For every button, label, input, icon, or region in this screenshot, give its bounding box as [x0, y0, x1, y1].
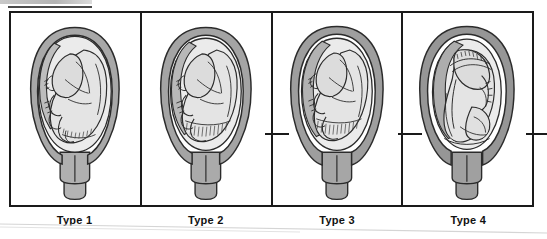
- panel-type-1: [11, 13, 142, 205]
- panel-label-type-4: Type 4: [403, 209, 534, 235]
- tick-mark-between-panels-2-3: [265, 133, 289, 135]
- panel-label-type-1: Type 1: [9, 209, 140, 235]
- panel-labels-row: Type 1 Type 2 Type 3 Type 4: [9, 209, 534, 235]
- uterus-illustration-type-4: [403, 13, 532, 205]
- panel-type-2: [142, 13, 273, 205]
- uterus-illustration-type-2: [142, 13, 271, 205]
- tick-mark-right-edge: [526, 133, 547, 135]
- panel-label-type-3: Type 3: [272, 209, 403, 235]
- panel-frame: [9, 11, 534, 207]
- uterus-illustration-type-1: [11, 13, 140, 205]
- tick-mark-between-panels-3-4: [398, 133, 422, 135]
- panel-label-type-2: Type 2: [140, 209, 271, 235]
- uterus-illustration-type-3: [273, 13, 402, 205]
- scan-artifact-line: [8, 6, 92, 8]
- scan-artifact-bar: [0, 0, 92, 4]
- panel-type-4: [403, 13, 532, 205]
- panel-type-3: [273, 13, 404, 205]
- figure-root: Type 1 Type 2 Type 3 Type 4: [0, 0, 547, 239]
